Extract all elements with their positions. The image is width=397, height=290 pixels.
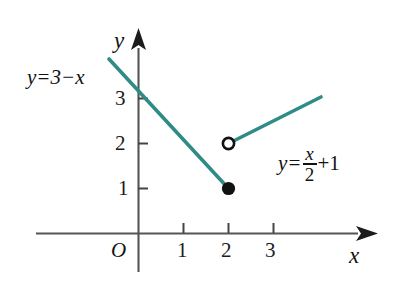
equation-label-left: y=3−x — [27, 67, 84, 88]
closed-circle-marker — [222, 182, 235, 195]
x-tick-label-3: 3 — [265, 240, 276, 261]
origin-label: O — [111, 240, 126, 261]
x-axis-arrowhead — [356, 226, 378, 241]
y-axis-label: y — [114, 29, 124, 52]
graph-figure: y x O 3 2 1 1 2 3 y=3−x y= x 2 +1 — [0, 0, 397, 290]
fraction-denominator: 2 — [303, 165, 317, 185]
equation-right-tail: +1 — [318, 153, 340, 174]
equation-right-head: y= — [278, 153, 302, 174]
fraction-x-over-2: x 2 — [303, 144, 317, 185]
y-axis-arrowhead — [131, 28, 146, 50]
x-tick-label-1: 1 — [177, 240, 188, 261]
fraction-numerator: x — [303, 144, 315, 163]
y-tick-label-3: 3 — [115, 88, 126, 109]
x-tick-label-2: 2 — [221, 240, 232, 261]
equation-label-right: y= x 2 +1 — [278, 143, 340, 184]
x-axis-label: x — [349, 244, 359, 267]
line-segment-increasing — [229, 97, 322, 144]
y-tick-label-1: 1 — [118, 178, 129, 199]
y-tick-label-2: 2 — [115, 133, 126, 154]
open-circle-marker — [223, 138, 234, 149]
line-segment-decreasing — [109, 59, 229, 189]
